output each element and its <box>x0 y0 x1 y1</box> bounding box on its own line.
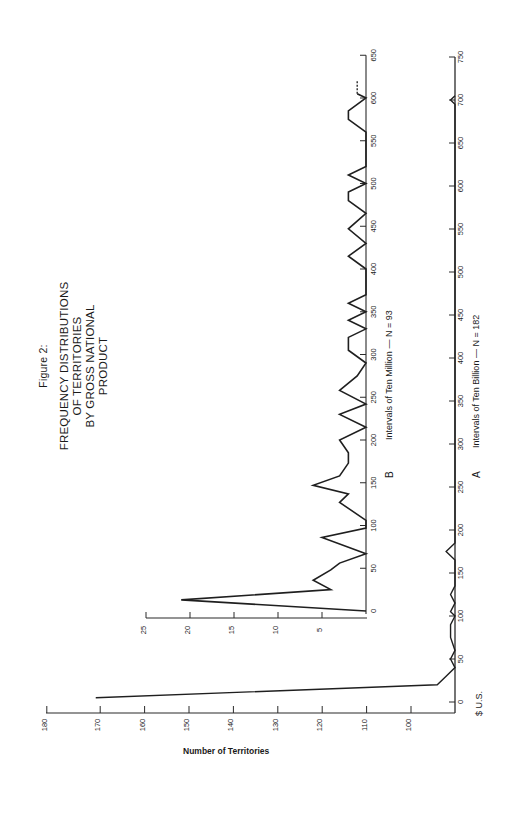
tick-label: 350 <box>369 305 378 318</box>
tick-label: 500 <box>369 177 378 190</box>
panel-a-count-ticks: 100110120130140150160170180 <box>40 706 413 731</box>
tick-label: 400 <box>456 352 465 365</box>
tick-label: 300 <box>456 438 465 451</box>
tick-label: 250 <box>456 481 465 494</box>
panel-b-chart: 050100150200250300350400450500550600650 … <box>139 49 378 634</box>
tick-label: 150 <box>456 567 465 580</box>
tick-label: 100 <box>456 610 465 623</box>
tick-label: 400 <box>369 263 378 276</box>
tick-label: 50 <box>456 655 465 663</box>
tick-label: 200 <box>369 434 378 447</box>
tick-label: 5 <box>315 628 324 632</box>
tick-label: 180 <box>40 719 49 732</box>
tick-label: 25 <box>139 626 148 634</box>
figure-title: Figure 2: FREQUENCY DISTRIBUTIONS OF TER… <box>37 280 110 452</box>
tick-label: 10 <box>271 626 280 634</box>
tick-label: 500 <box>456 266 465 279</box>
tick-label: 750 <box>456 51 465 64</box>
tick-label: 140 <box>226 719 235 732</box>
figure-number: Figure 2: <box>37 280 50 452</box>
tick-label: 100 <box>404 719 413 732</box>
title-line-2: OF TERRITORIES <box>71 280 84 452</box>
tick-label: 700 <box>456 94 465 107</box>
tick-label: 150 <box>369 476 378 489</box>
panel-b-frequency-line <box>181 94 366 611</box>
tick-label: 600 <box>456 180 465 193</box>
panel-b-count-ticks: 510152025 <box>139 612 324 634</box>
tick-label: 650 <box>456 137 465 150</box>
panel-a-value-ticks: 0501001502002503003504004505005506006507… <box>449 51 465 704</box>
panel-a-frequency-line <box>96 96 455 698</box>
tick-label: 450 <box>369 220 378 233</box>
currency-label: $ U.S. <box>474 691 484 716</box>
tick-label: 550 <box>369 134 378 147</box>
tick-label: 100 <box>369 519 378 532</box>
tick-label: 20 <box>183 626 192 634</box>
panel-a-axis-label: Intervals of Ten Billion — N = 182 <box>471 315 481 448</box>
tick-label: 250 <box>369 391 378 404</box>
tick-label: 550 <box>456 223 465 236</box>
panel-a-letter: A <box>471 471 482 478</box>
y-axis-title: Number of Territories <box>183 746 269 756</box>
tick-label: 170 <box>93 719 102 732</box>
tick-label: 150 <box>182 719 191 732</box>
tick-label: 300 <box>369 348 378 361</box>
tick-label: 450 <box>456 309 465 322</box>
tick-label: 200 <box>456 524 465 537</box>
title-line-3: BY GROSS NATIONAL PRODUCT <box>84 280 110 452</box>
tick-label: 160 <box>138 719 147 732</box>
tick-label: 0 <box>456 700 465 704</box>
panel-b-letter: B <box>384 471 395 478</box>
tick-label: 15 <box>227 626 236 634</box>
title-line-1: FREQUENCY DISTRIBUTIONS <box>58 280 71 452</box>
tick-label: 110 <box>360 719 369 731</box>
tick-label: 120 <box>315 719 324 732</box>
tick-label: 650 <box>369 49 378 62</box>
tick-label: 0 <box>369 609 378 613</box>
tick-label: 130 <box>271 719 280 732</box>
tick-label: 600 <box>369 92 378 105</box>
panel-b-axis-label: Intervals of Ten Million — N = 93 <box>384 310 394 440</box>
tick-label: 350 <box>456 395 465 408</box>
tick-label: 50 <box>369 564 378 572</box>
